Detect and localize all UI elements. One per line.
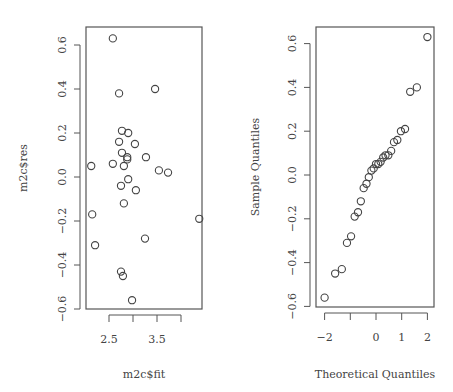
y-tick-label: 0.0 <box>286 166 299 184</box>
data-point <box>347 233 354 240</box>
y-tick-label: −0.2 <box>286 205 299 232</box>
data-point <box>142 154 149 161</box>
data-point <box>120 162 127 169</box>
data-point <box>120 200 127 207</box>
y-tick-label: −0.4 <box>56 252 69 279</box>
y-tick-label: 0.4 <box>286 79 299 97</box>
data-point <box>332 270 339 277</box>
y-tick-label: 0.2 <box>56 124 69 142</box>
data-point <box>125 129 132 136</box>
data-point <box>151 85 158 92</box>
data-point <box>424 33 431 40</box>
y-tick-label: 0.2 <box>286 122 299 140</box>
data-point <box>128 297 135 304</box>
data-point <box>119 272 126 279</box>
data-point <box>164 169 171 176</box>
data-point <box>117 268 124 275</box>
x-axis-title: Theoretical Quantiles <box>315 368 436 381</box>
data-point <box>132 187 139 194</box>
data-point <box>131 140 138 147</box>
y-tick-label: 0.4 <box>56 80 69 98</box>
panel-normal-qq: −0.6−0.4−0.20.00.20.40.6−2012Theoretical… <box>249 27 436 381</box>
data-point <box>321 294 328 301</box>
x-tick-label: −2 <box>316 331 332 344</box>
y-tick-label: 0.0 <box>56 168 69 186</box>
y-tick-label: 0.6 <box>56 36 69 54</box>
data-point <box>155 167 162 174</box>
data-point <box>413 84 420 91</box>
x-tick-label: 1 <box>398 331 405 344</box>
x-tick-label: 0 <box>373 331 380 344</box>
y-tick-label: 0.6 <box>286 35 299 53</box>
plot-frame <box>86 27 202 309</box>
data-point <box>88 162 95 169</box>
y-axis-title: Sample Quantiles <box>249 117 262 216</box>
data-point <box>115 90 122 97</box>
y-tick-label: −0.2 <box>56 208 69 235</box>
x-tick-label: 2 <box>424 331 431 344</box>
data-point <box>91 242 98 249</box>
y-tick-label: −0.4 <box>286 249 299 276</box>
x-tick-label: 3.5 <box>148 333 166 346</box>
x-axis-title: m2c$fit <box>123 368 166 381</box>
data-point <box>117 182 124 189</box>
data-point <box>115 138 122 145</box>
data-point <box>141 235 148 242</box>
data-point <box>109 35 116 42</box>
data-point <box>125 176 132 183</box>
panel-residuals-vs-fitted: −0.6−0.4−0.20.00.20.40.62.53.5m2c$fitm2c… <box>17 27 203 381</box>
figure: −0.6−0.4−0.20.00.20.40.62.53.5m2c$fitm2c… <box>0 0 453 392</box>
y-axis-title: m2c$res <box>17 144 30 192</box>
x-tick-label: 2.5 <box>100 333 118 346</box>
data-point <box>109 160 116 167</box>
data-point <box>407 88 414 95</box>
data-point <box>89 211 96 218</box>
data-point <box>338 266 345 273</box>
data-point <box>357 198 364 205</box>
y-tick-label: −0.6 <box>56 296 69 323</box>
data-point <box>343 239 350 246</box>
y-tick-label: −0.6 <box>286 293 299 320</box>
